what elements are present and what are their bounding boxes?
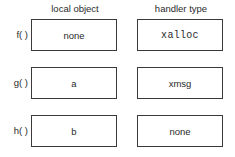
handler-type-box-f: xalloc — [137, 19, 223, 51]
handler-type-value: none — [169, 126, 190, 137]
function-label-f: f( ) — [0, 29, 28, 40]
local-object-value: a — [71, 78, 76, 89]
handler-type-value: xmsg — [169, 78, 192, 89]
handler-type-value: xalloc — [161, 30, 199, 41]
local-object-value: none — [63, 30, 84, 41]
column-header-local-object: local object — [31, 3, 119, 14]
function-label-g: g( ) — [0, 77, 28, 88]
column-header-handler-type: handler type — [137, 3, 225, 14]
local-object-box-h: b — [31, 115, 117, 147]
local-object-box-g: a — [31, 67, 117, 99]
function-label-h: h( ) — [0, 125, 28, 136]
handler-type-box-h: none — [137, 115, 223, 147]
handler-type-box-g: xmsg — [137, 67, 223, 99]
local-object-box-f: none — [31, 19, 117, 51]
local-object-value: b — [71, 126, 76, 137]
